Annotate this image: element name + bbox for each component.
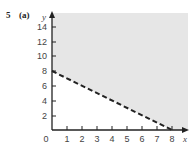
- svg-text:5: 5: [124, 134, 129, 144]
- y-axis-label: y: [41, 12, 46, 22]
- inequality-graph: 2 4 6 8 10 12 14 y 0 1 2 3 4 5 6 7 8 x: [0, 0, 192, 146]
- x-tick-labels: 0 1 2 3 4 5 6 7 8: [43, 134, 174, 144]
- svg-text:4: 4: [109, 134, 114, 144]
- svg-text:12: 12: [37, 37, 47, 47]
- svg-text:8: 8: [169, 134, 174, 144]
- svg-text:7: 7: [154, 134, 159, 144]
- svg-text:2: 2: [42, 111, 47, 121]
- svg-text:6: 6: [139, 134, 144, 144]
- svg-text:0: 0: [43, 134, 48, 144]
- x-axis-label: x: [182, 134, 187, 144]
- svg-text:2: 2: [79, 134, 84, 144]
- svg-text:10: 10: [37, 51, 47, 61]
- svg-text:4: 4: [42, 96, 47, 106]
- shaded-region: [52, 13, 188, 130]
- svg-text:1: 1: [64, 134, 69, 144]
- svg-text:3: 3: [94, 134, 99, 144]
- svg-text:6: 6: [42, 81, 47, 91]
- y-tick-labels: 2 4 6 8 10 12 14: [37, 22, 47, 121]
- svg-text:8: 8: [42, 66, 47, 76]
- svg-text:14: 14: [37, 22, 47, 32]
